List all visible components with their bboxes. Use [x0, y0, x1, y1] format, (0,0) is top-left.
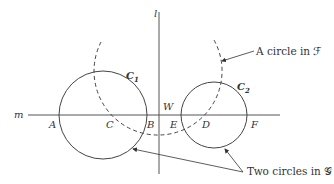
point-w-label: W — [163, 101, 174, 112]
point-a-label: A — [48, 119, 56, 130]
annotation-family-f: A circle in ℱ — [255, 45, 322, 57]
point-f-label: F — [250, 119, 259, 130]
point-b-label: B — [146, 119, 154, 130]
point-e-label: E — [169, 119, 178, 130]
line-m-label: m — [14, 109, 23, 120]
arrow-family-g-c1 — [133, 149, 243, 172]
geometry-figure: l m C1 C2 A C B W E D F A circle in ℱ Tw… — [0, 0, 334, 184]
arrow-family-f — [222, 51, 254, 61]
point-c-label: C — [106, 119, 114, 130]
point-d-label: D — [201, 119, 210, 130]
line-l-label: l — [154, 8, 157, 19]
annotation-family-g: Two circles in 𝒢 — [247, 165, 332, 177]
